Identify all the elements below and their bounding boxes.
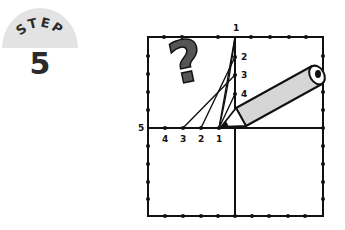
top-label-1: 1 — [233, 23, 239, 33]
bottom-label-1: 1 — [216, 134, 222, 144]
left-label-5: 5 — [138, 123, 144, 133]
pencil-icon — [221, 63, 328, 127]
bottom-label-2: 2 — [198, 134, 204, 144]
string-art-diagram: ? 1 2 3 4 4 3 2 1 5 — [0, 0, 345, 230]
top-label-4: 4 — [241, 89, 247, 99]
bottom-label-3: 3 — [180, 134, 186, 144]
top-label-3: 3 — [241, 70, 247, 80]
top-label-2: 2 — [241, 52, 247, 62]
bottom-label-4: 4 — [162, 134, 168, 144]
